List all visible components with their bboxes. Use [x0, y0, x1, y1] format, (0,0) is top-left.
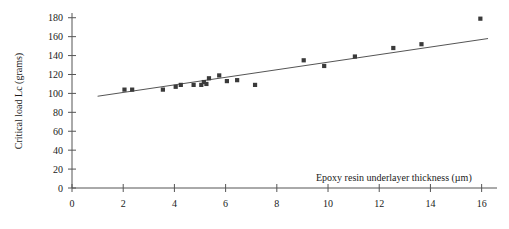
x-tick-label: 16	[477, 198, 487, 209]
data-point	[192, 83, 196, 87]
data-point	[179, 83, 183, 87]
y-tick-label: 140	[48, 50, 63, 61]
x-tick-label: 12	[374, 198, 384, 209]
x-tick-label: 6	[223, 198, 228, 209]
data-point	[253, 83, 257, 87]
data-point	[235, 78, 239, 82]
x-axis-tick-labels: 0246810121416	[70, 198, 487, 209]
y-tick-label: 60	[53, 126, 63, 137]
data-point	[174, 85, 178, 89]
y-axis-title: Critical load Lc (grams)	[13, 53, 25, 149]
scatter-plot: 020406080100120140160180 0246810121416 C…	[0, 0, 509, 229]
x-tick-label: 14	[425, 198, 435, 209]
data-point	[204, 82, 208, 86]
data-point	[322, 64, 326, 68]
regression-trend-line	[98, 39, 488, 97]
x-tick-label: 4	[172, 198, 177, 209]
data-point	[122, 88, 126, 92]
y-tick-label: 180	[48, 12, 63, 23]
chart-container: 020406080100120140160180 0246810121416 C…	[0, 0, 509, 229]
x-tick-label: 0	[70, 198, 75, 209]
y-tick-label: 120	[48, 69, 63, 80]
x-axis-title: Epoxy resin underlayer thickness (µm)	[316, 172, 472, 184]
data-point	[130, 88, 134, 92]
y-tick-label: 40	[53, 145, 63, 156]
y-tick-label: 100	[48, 88, 63, 99]
y-tick-label: 160	[48, 31, 63, 42]
data-point	[353, 54, 357, 58]
y-axis: 020406080100120140160180	[48, 12, 76, 193]
data-point	[207, 76, 211, 80]
data-point	[302, 58, 306, 62]
data-point	[478, 17, 482, 21]
data-point	[225, 79, 229, 83]
data-point	[217, 73, 221, 77]
x-tick-label: 2	[121, 198, 126, 209]
x-tick-label: 10	[323, 198, 333, 209]
data-point	[419, 42, 423, 46]
data-point	[161, 88, 165, 92]
x-axis: 0246810121416	[70, 184, 498, 209]
data-point-group	[122, 17, 482, 92]
y-tick-label: 20	[53, 164, 63, 175]
data-point	[391, 46, 395, 50]
y-axis-tick-labels: 020406080100120140160180	[48, 12, 63, 193]
y-tick-label: 0	[58, 183, 63, 194]
y-tick-label: 80	[53, 107, 63, 118]
x-tick-label: 8	[274, 198, 279, 209]
